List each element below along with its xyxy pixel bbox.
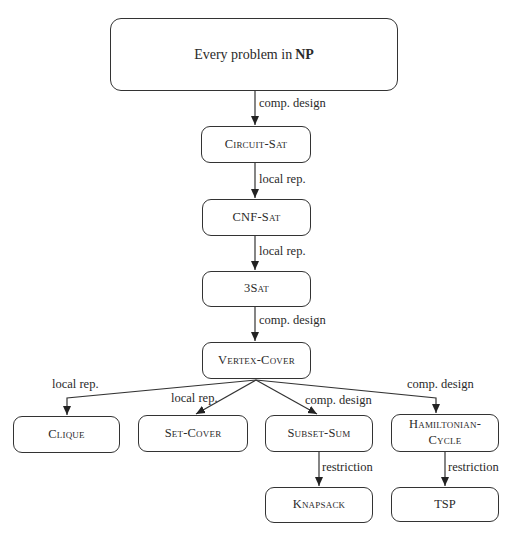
edge-label-subsetsum-knapsack: restriction xyxy=(322,460,373,475)
edge-label-vertexcover-setcover: local rep. xyxy=(171,391,218,406)
node-label: TSP xyxy=(434,497,456,513)
node-root-text: Every problem in xyxy=(194,46,292,64)
node-label: 3Sat xyxy=(244,281,269,297)
node-label: Set-Cover xyxy=(165,426,222,442)
node-label-line1: Hamiltonian- xyxy=(409,417,481,433)
edge-label-root-circuit: comp. design xyxy=(259,96,326,111)
node-label: Clique xyxy=(48,427,85,443)
node-label: Knapsack xyxy=(293,497,346,513)
edge-label-3sat-vertexcover: comp. design xyxy=(259,313,326,328)
edge-label-cnf-3sat: local rep. xyxy=(259,244,306,259)
node-3sat: 3Sat xyxy=(202,271,311,307)
node-label-line2: Cycle xyxy=(429,433,462,449)
np-class-label: NP xyxy=(295,46,314,64)
node-every-problem-in-np: Every problem inNP xyxy=(110,18,398,91)
node-clique: Clique xyxy=(13,416,120,453)
node-hamiltonian-cycle: Hamiltonian- Cycle xyxy=(391,414,499,452)
node-label: Vertex-Cover xyxy=(218,353,295,369)
edge-label-vertexcover-clique: local rep. xyxy=(52,377,99,392)
node-label: Circuit-Sat xyxy=(225,137,288,153)
node-label: CNF-Sat xyxy=(233,210,281,226)
edge-label-vertexcover-subsetsum: comp. design xyxy=(305,393,372,408)
node-tsp: TSP xyxy=(391,487,499,522)
edge-label-circuit-cnf: local rep. xyxy=(259,172,306,187)
edge-label-vertexcover-hamiltonian: comp. design xyxy=(407,377,474,392)
node-set-cover: Set-Cover xyxy=(138,415,248,452)
node-subset-sum: Subset-Sum xyxy=(265,415,373,452)
edge-label-hamiltonian-tsp: restriction xyxy=(448,460,499,475)
node-circuit-sat: Circuit-Sat xyxy=(201,126,311,163)
node-vertex-cover: Vertex-Cover xyxy=(202,342,311,379)
node-label: Subset-Sum xyxy=(287,426,350,442)
node-cnf-sat: CNF-Sat xyxy=(202,199,311,236)
node-knapsack: Knapsack xyxy=(265,487,373,523)
